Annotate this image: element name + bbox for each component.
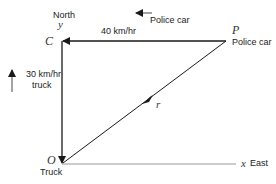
truck-o-label: Truck [40, 168, 62, 177]
r-vector-label: r⃗ [156, 99, 169, 110]
point-c-label: C [45, 35, 53, 47]
truck-speed-label: 30 km/hr [26, 70, 61, 79]
police-speed-label: 40 km/hr [101, 27, 136, 36]
north-label: North [53, 11, 75, 20]
x-axis-label: x [241, 158, 246, 169]
truck-word-label: truck [32, 81, 52, 90]
police-car-top-label: Police car [150, 16, 190, 25]
east-label: East [250, 159, 268, 168]
y-axis-label: y [58, 19, 63, 30]
point-o-label: O [47, 154, 56, 166]
police-car-p-label: Police car [232, 38, 272, 47]
point-p-label: P [232, 24, 239, 36]
